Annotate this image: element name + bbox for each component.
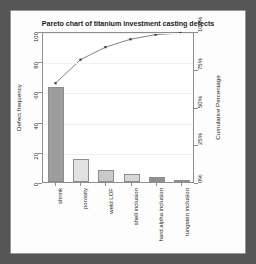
y-tick-label-right: 25% bbox=[197, 133, 203, 145]
x-tick bbox=[55, 183, 56, 186]
cumulative-line bbox=[56, 33, 181, 83]
gridline bbox=[43, 154, 193, 155]
x-tick bbox=[131, 183, 132, 186]
cumulative-line-chart bbox=[43, 33, 193, 182]
cumulative-point-1[interactable] bbox=[79, 59, 81, 61]
y-axis-title-right-text: Cumulative Percentage bbox=[214, 75, 221, 139]
plot-area bbox=[42, 32, 194, 183]
gridline bbox=[43, 93, 193, 94]
y-tick-label-right: 100% bbox=[197, 17, 203, 32]
bar-hard-alpha-inclusion[interactable] bbox=[149, 177, 165, 182]
bar-weld-LOF[interactable] bbox=[98, 170, 114, 182]
x-tick-label-hard-alpha-inclusion: hard alpha inclusion bbox=[158, 188, 164, 241]
x-tick bbox=[105, 183, 106, 186]
y-tick-right bbox=[194, 145, 198, 146]
y-tick-right bbox=[194, 32, 198, 33]
chart-title: Pareto chart of titanium investment cast… bbox=[11, 19, 245, 28]
x-tick-label-shell-inclusion: shell inclusion bbox=[133, 188, 139, 225]
x-tick bbox=[80, 183, 81, 186]
y-tick-label-left: 40 bbox=[33, 123, 39, 130]
chart-card: Pareto chart of titanium investment cast… bbox=[11, 11, 245, 253]
gridline bbox=[43, 63, 193, 64]
y-tick-label-left: 80 bbox=[33, 62, 39, 69]
y-tick-label-left: 100 bbox=[33, 32, 39, 42]
x-tick-label-shrink: shrink bbox=[57, 188, 63, 204]
gridline bbox=[43, 124, 193, 125]
x-axis: shrinkporosityweld LOFshell inclusionhar… bbox=[42, 183, 194, 249]
bar-shrink[interactable] bbox=[48, 87, 64, 182]
y-tick-label-left: 20 bbox=[33, 153, 39, 160]
x-tick-label-porosity: porosity bbox=[82, 188, 88, 209]
y-tick-label-right: 0% bbox=[197, 174, 203, 183]
y-axis-title-right: Cumulative Percentage bbox=[211, 32, 223, 183]
y-tick-label-right: 50% bbox=[197, 95, 203, 107]
screenshot-root: Pareto chart of titanium investment cast… bbox=[0, 0, 256, 264]
x-tick bbox=[181, 183, 182, 186]
y-tick-right bbox=[194, 183, 198, 184]
cumulative-point-0[interactable] bbox=[54, 82, 56, 84]
bar-porosity[interactable] bbox=[73, 159, 89, 182]
y-tick-label-left: 60 bbox=[33, 92, 39, 99]
x-tick-label-weld-LOF: weld LOF bbox=[108, 188, 114, 214]
y-tick-label-left: 0 bbox=[33, 183, 39, 186]
bar-shell-inclusion[interactable] bbox=[124, 174, 140, 182]
bar-tungsten-inclusion[interactable] bbox=[174, 180, 190, 182]
y-tick-label-right: 75% bbox=[197, 58, 203, 70]
plot-inner bbox=[43, 33, 193, 182]
y-axis-left: 020406080100 bbox=[11, 32, 42, 183]
gridline bbox=[43, 33, 193, 34]
x-tick-label-tungsten-inclusion: tungsten inclusion bbox=[184, 188, 190, 236]
cumulative-point-3[interactable] bbox=[129, 38, 131, 40]
cumulative-point-2[interactable] bbox=[104, 46, 106, 48]
x-tick bbox=[156, 183, 157, 186]
